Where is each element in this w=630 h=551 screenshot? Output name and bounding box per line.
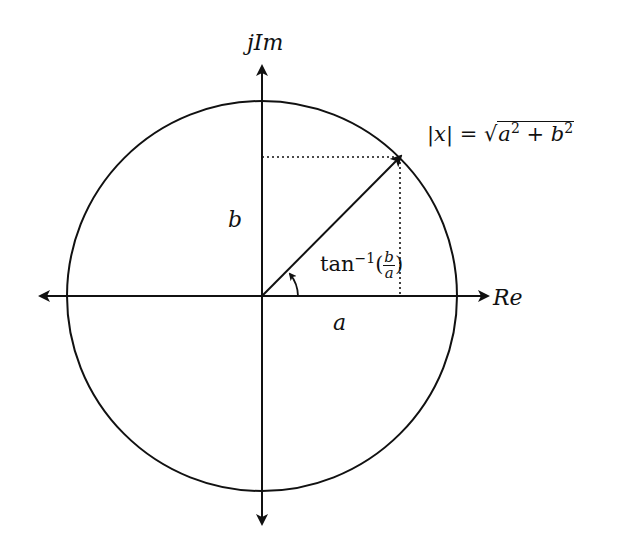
sqrt-symbol: √ [484,122,497,146]
open-paren: ( [375,252,383,276]
plus-sign: + [520,122,551,146]
angle-arc [290,274,298,296]
b-over-a-fraction: ba [383,250,395,281]
imaginary-axis-label: jIm [247,30,283,55]
tan-function: tan [320,252,354,276]
real-axis-label: Re [493,285,523,310]
radicand-b: b [551,122,564,146]
magnitude-lhs: |x| = [427,122,484,146]
b-label: b [228,207,242,232]
diagram-graphics [0,0,630,551]
exponent-b: 2 [564,120,573,136]
exponent-a: 2 [511,120,520,136]
magnitude-formula: |x| = √a2 + b2 [427,120,574,146]
close-paren: ) [395,252,403,276]
complex-plane-diagram: jIm Re b a |x| = √a2 + b2 tan−1(ba) [0,0,630,551]
a-label: a [333,310,346,335]
radicand: a2 + b2 [497,121,574,146]
angle-formula: tan−1(ba) [320,250,403,281]
fraction-denominator: a [383,266,395,281]
radicand-a: a [498,122,511,146]
inverse-exponent: −1 [354,250,375,266]
